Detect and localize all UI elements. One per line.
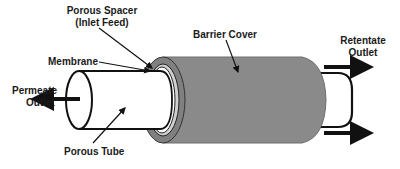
- permeate-outlet-label: Permeate Outlet: [12, 85, 62, 109]
- membrane-label: Membrane: [48, 56, 98, 68]
- retentate-outlet-label: Retentate Outlet: [335, 35, 391, 59]
- porous-spacer-label: Porous Spacer (Inlet Feed): [62, 5, 142, 29]
- barrier-cover: [163, 57, 326, 143]
- porous-spacer-leader: [99, 28, 152, 68]
- porous-tube-label: Porous Tube: [64, 146, 124, 158]
- membrane-leader: [99, 62, 150, 71]
- barrier-cover-label: Barrier Cover: [193, 29, 257, 41]
